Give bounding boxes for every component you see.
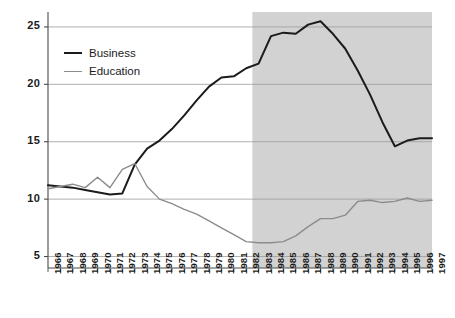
y-tick-label-25: 25 [10,19,40,31]
x-tick-label-1987: 1987 [312,252,323,274]
x-tick-label-1980: 1980 [225,252,236,274]
x-tick-label-1969: 1969 [89,252,100,274]
x-tick-label-1977: 1977 [188,252,199,274]
line-chart: 510152025 196619671968196919701971197219… [0,0,455,318]
x-tick-label-1982: 1982 [250,252,261,274]
y-tick-label-10: 10 [10,192,40,204]
legend-item-education: Education [64,63,140,79]
x-tick-label-1985: 1985 [287,252,298,274]
y-tick-label-20: 20 [10,77,40,89]
x-tick-label-1973: 1973 [139,252,150,274]
y-tick-label-5: 5 [10,249,40,261]
legend-item-business: Business [64,45,140,61]
legend-label-business: Business [89,47,136,59]
x-tick-label-1992: 1992 [374,252,385,274]
x-tick-label-1995: 1995 [411,252,422,274]
x-tick-label-1971: 1971 [114,252,125,274]
legend-swatch-business [64,52,82,54]
x-tick-label-1966: 1966 [52,252,63,274]
legend-swatch-education [64,71,82,72]
x-tick-label-1993: 1993 [386,252,397,274]
x-tick-label-1984: 1984 [275,252,286,274]
x-tick-label-1967: 1967 [64,252,75,274]
highlight-band [252,12,432,268]
x-tick-label-1991: 1991 [362,252,373,274]
x-tick-label-1996: 1996 [424,252,435,274]
x-tick-label-1968: 1968 [77,252,88,274]
x-tick-label-1974: 1974 [151,252,162,274]
x-tick-label-1978: 1978 [201,252,212,274]
x-tick-label-1981: 1981 [238,252,249,274]
y-tick-label-15: 15 [10,134,40,146]
x-tick-label-1990: 1990 [349,252,360,274]
x-tick-label-1994: 1994 [399,252,410,274]
x-tick-label-1975: 1975 [163,252,174,274]
legend-label-education: Education [89,65,140,77]
x-tick-label-1976: 1976 [176,252,187,274]
x-tick-label-1988: 1988 [325,252,336,274]
x-tick-label-1972: 1972 [126,252,137,274]
x-tick-label-1983: 1983 [263,252,274,274]
x-tick-label-1997: 1997 [436,252,447,274]
x-tick-label-1989: 1989 [337,252,348,274]
chart-legend: Business Education [64,45,140,81]
x-tick-label-1970: 1970 [102,252,113,274]
x-tick-label-1979: 1979 [213,252,224,274]
x-tick-label-1986: 1986 [300,252,311,274]
